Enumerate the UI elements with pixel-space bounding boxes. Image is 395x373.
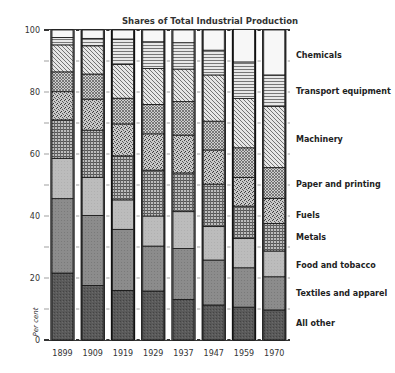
- bar-segment: [264, 198, 285, 223]
- x-tick-label: 1959: [234, 349, 254, 358]
- bar-segment: [52, 92, 73, 120]
- y-tick-label: 60: [30, 150, 40, 159]
- svg-text:Textiles and apparel: Textiles and apparel: [296, 289, 387, 298]
- legend-item: Fuels: [296, 211, 320, 220]
- bar-segment: [82, 38, 103, 45]
- bar-segment: [203, 121, 224, 150]
- bar-segment: [264, 30, 285, 75]
- bar-segment: [173, 135, 194, 173]
- bar-segment: [234, 99, 255, 148]
- bar-segment: [173, 69, 194, 102]
- bar-segment: [143, 216, 164, 246]
- bar-segment: [82, 215, 103, 285]
- bar-segment: [113, 156, 134, 200]
- legend-item: Transport equipment: [296, 87, 391, 96]
- x-tick-label: 1937: [173, 349, 193, 358]
- bar-segment: [264, 107, 285, 168]
- x-tick-label: 1899: [52, 349, 72, 358]
- bar-segment: [264, 75, 285, 107]
- svg-text:Paper and printing: Paper and printing: [296, 180, 381, 189]
- bar-segment: [52, 72, 73, 92]
- bar-segment: [234, 29, 255, 62]
- svg-text:Machinery: Machinery: [296, 135, 344, 144]
- bar-segment: [143, 291, 164, 340]
- bar-segment: [173, 43, 194, 69]
- bar-segment: [113, 30, 134, 39]
- bar-segment: [264, 277, 285, 310]
- bar-segment: [203, 227, 224, 260]
- x-axis: 18991909191919291937194719591970: [52, 349, 284, 358]
- y-tick-label: 100: [25, 26, 40, 35]
- svg-text:Transport equipment: Transport equipment: [296, 87, 391, 96]
- bar-segment: [113, 229, 134, 290]
- bar-segment: [234, 238, 255, 267]
- bar-segment: [203, 184, 224, 226]
- bar-segment: [52, 30, 73, 37]
- bar-segment: [52, 45, 73, 72]
- y-axis-label: Per cent: [32, 307, 40, 336]
- bar-segment: [203, 305, 224, 340]
- bar-segment: [234, 307, 255, 340]
- bar-segment: [143, 246, 164, 291]
- x-tick-label: 1909: [83, 349, 103, 358]
- legend-item: Chemicals: [296, 51, 342, 60]
- bar-segment: [52, 120, 73, 158]
- bar-segment: [52, 199, 73, 273]
- bar-segment: [203, 30, 224, 50]
- legend-item: Textiles and apparel: [296, 289, 387, 298]
- bar-segment: [143, 42, 164, 69]
- bar-segment: [82, 99, 103, 130]
- bar-1937: [170, 30, 197, 340]
- bar-segment: [143, 104, 164, 133]
- bar-segment: [143, 30, 164, 42]
- bar-segment: [143, 134, 164, 170]
- y-tick-label: 40: [30, 212, 40, 221]
- svg-text:Chemicals: Chemicals: [296, 51, 342, 60]
- chart-title: Shares of Total Industrial Production: [122, 16, 298, 26]
- legend-item: Machinery: [296, 135, 344, 144]
- x-tick-label: 1929: [143, 349, 163, 358]
- legend-item: All other: [296, 319, 335, 328]
- bar-segment: [203, 260, 224, 305]
- bar-segment: [82, 74, 103, 99]
- bar-segment: [234, 62, 255, 99]
- bar-segment: [234, 206, 255, 238]
- bar-segment: [82, 177, 103, 215]
- bar-1929: [140, 30, 167, 340]
- bar-segment: [264, 310, 285, 340]
- stacked-bar-chart: Shares of Total Industrial Production 02…: [0, 0, 395, 373]
- bar-segment: [234, 178, 255, 207]
- bar-1959: [231, 29, 258, 340]
- bar-segment: [113, 98, 134, 124]
- svg-text:Food and tobacco: Food and tobacco: [296, 261, 376, 270]
- bar-1919: [110, 30, 137, 340]
- y-tick-label: 80: [30, 88, 40, 97]
- bar-segment: [113, 64, 134, 98]
- x-tick-label: 1970: [264, 349, 284, 358]
- bar-1970: [261, 30, 288, 340]
- bar-1947: [200, 30, 227, 340]
- bar-segment: [173, 30, 194, 43]
- bar-segment: [82, 46, 103, 74]
- bar-segment: [203, 50, 224, 75]
- bar-segment: [52, 158, 73, 198]
- bar-segment: [173, 102, 194, 135]
- bar-segment: [82, 30, 103, 38]
- bar-segment: [173, 249, 194, 300]
- bar-segment: [234, 148, 255, 178]
- legend-item: Food and tobacco: [296, 261, 376, 270]
- bar-segment: [264, 251, 285, 277]
- y-tick-label: 20: [30, 274, 40, 283]
- bar-segment: [113, 39, 134, 64]
- bar-segment: [173, 212, 194, 249]
- bar-segment: [113, 200, 134, 229]
- bar-segment: [143, 68, 164, 104]
- bar-segment: [203, 75, 224, 121]
- bar-segment: [113, 290, 134, 340]
- bar-segment: [264, 223, 285, 251]
- bar-segment: [52, 273, 73, 340]
- bar-segment: [82, 285, 103, 340]
- bar-1899: [49, 30, 76, 340]
- x-tick-label: 1919: [113, 349, 133, 358]
- bar-segment: [82, 130, 103, 177]
